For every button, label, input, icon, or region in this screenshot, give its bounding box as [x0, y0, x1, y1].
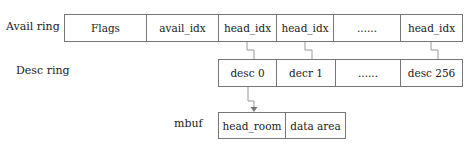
arrowhead-icon [251, 107, 258, 112]
connector-desc0-to-mbuf [248, 87, 254, 108]
connector-head-idx-to-desc256 [431, 42, 438, 59]
connector-head-idx-to-decr1 [305, 42, 312, 59]
connector-lines [0, 0, 469, 154]
connector-head-idx-to-desc0 [247, 42, 254, 59]
